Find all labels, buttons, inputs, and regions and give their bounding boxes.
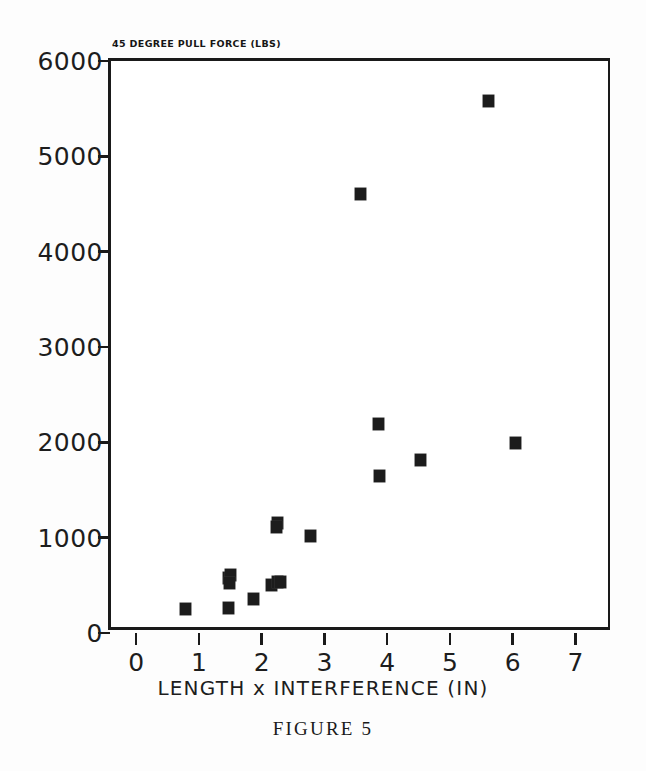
scatter-point — [305, 530, 316, 542]
x-tick-label: 3 — [316, 648, 332, 677]
x-tick-mark — [511, 633, 514, 645]
plot-title: 45 DEGREE PULL FORCE (LBS) — [112, 38, 281, 49]
x-tick-mark — [386, 633, 389, 645]
x-tick-mark — [198, 633, 201, 645]
scatter-points-layer — [111, 61, 608, 627]
scatter-point — [180, 603, 191, 615]
x-tick-label: 0 — [128, 648, 144, 677]
x-axis-label: LENGTH x INTERFERENCE (IN) — [0, 676, 646, 700]
scatter-point — [483, 95, 494, 107]
y-tick-label: 2000 — [37, 428, 103, 457]
x-tick-label: 1 — [191, 648, 207, 677]
scatter-point — [271, 521, 282, 533]
scatter-point — [415, 454, 426, 466]
x-tick-label: 6 — [505, 648, 521, 677]
plot-area: 0100020003000400050006000 01234567 — [108, 58, 610, 630]
y-tick-label: 6000 — [37, 47, 103, 76]
figure-root: 45 DEGREE PULL FORCE (LBS) 0100020003000… — [0, 0, 646, 771]
x-tick-mark — [323, 633, 326, 645]
x-tick-mark — [135, 633, 138, 645]
x-tick-mark — [449, 633, 452, 645]
x-tick-label: 2 — [254, 648, 270, 677]
scatter-point — [373, 418, 384, 430]
y-tick-label: 5000 — [37, 142, 103, 171]
scatter-point — [224, 577, 235, 589]
y-tick-label: 4000 — [37, 237, 103, 266]
scatter-point — [374, 470, 385, 482]
x-tick-label: 4 — [379, 648, 395, 677]
x-tick-mark — [574, 633, 577, 645]
x-tick-mark — [260, 633, 263, 645]
figure-caption: FIGURE 5 — [0, 718, 646, 740]
y-tick-label: 3000 — [37, 333, 103, 362]
x-tick-label: 5 — [442, 648, 458, 677]
y-tick-label: 0 — [87, 619, 103, 648]
y-tick-label: 1000 — [37, 523, 103, 552]
scatter-point — [248, 593, 259, 605]
scatter-point — [510, 437, 521, 449]
x-tick-label: 7 — [567, 648, 583, 677]
scatter-point — [275, 576, 286, 588]
scatter-point — [223, 602, 234, 614]
scatter-point — [355, 188, 366, 200]
